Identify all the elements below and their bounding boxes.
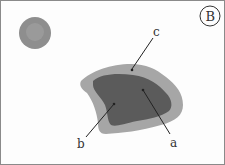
small-spot [19,17,51,49]
label-b: b [77,137,85,151]
lesion-diagram: c a b B [1,1,224,164]
diagram-panel: c a b B [0,0,225,165]
label-a: a [170,136,177,150]
leader-line-c [132,38,153,69]
label-c: c [153,25,160,39]
panel-letter: B [206,9,216,24]
